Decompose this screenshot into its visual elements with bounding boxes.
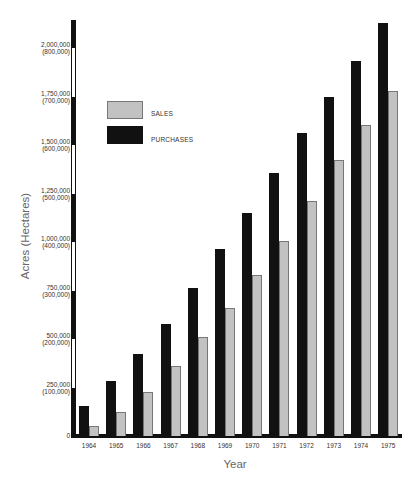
bar-purchases — [161, 324, 171, 436]
bar-sales — [361, 125, 371, 436]
x-tick-label: 1968 — [183, 442, 213, 449]
x-axis-title: Year — [205, 458, 265, 470]
bar-purchases — [269, 173, 279, 436]
x-tick-label: 1966 — [128, 442, 158, 449]
axis-stripe — [71, 194, 76, 243]
bar-sales — [89, 426, 99, 436]
x-tick-label: 1974 — [346, 442, 376, 449]
bar-purchases — [351, 61, 361, 436]
x-tick-label: 1969 — [210, 442, 240, 449]
bar-chart: Acres (Hectares) Year 0250,000(100,000)5… — [0, 0, 416, 484]
y-tick-label: 0 — [66, 432, 70, 439]
legend-label-sales: SALES — [151, 110, 173, 117]
axis-stripe — [71, 48, 76, 97]
bar-sales — [279, 241, 289, 436]
bar-purchases — [79, 406, 89, 436]
axis-stripe — [71, 145, 76, 194]
bar-sales — [252, 275, 262, 436]
bar-sales — [307, 201, 317, 436]
axis-stripe — [71, 291, 76, 340]
axis-stripe — [71, 20, 76, 48]
x-tick-label: 1965 — [101, 442, 131, 449]
bar-purchases — [378, 23, 388, 436]
y-tick-label: 1,000,000(400,000) — [41, 235, 70, 249]
axis-stripe — [71, 97, 76, 146]
bar-sales — [171, 366, 181, 436]
y-tick-label: 1,500,000(600,000) — [41, 138, 70, 152]
y-axis-title: Acres (Hectares) — [19, 181, 31, 291]
x-tick-label: 1971 — [264, 442, 294, 449]
x-tick-label: 1964 — [74, 442, 104, 449]
bar-purchases — [324, 97, 334, 436]
bar-purchases — [242, 213, 252, 436]
legend-swatch-sales — [107, 101, 143, 119]
y-tick-label: 1,750,000(700,000) — [41, 90, 70, 104]
y-tick-label: 1,250,000(500,000) — [41, 187, 70, 201]
y-tick-label: 750,000(300,000) — [42, 284, 70, 298]
legend-label-purchases: PURCHASES — [151, 136, 193, 143]
bar-sales — [334, 160, 344, 436]
bar-purchases — [297, 133, 307, 436]
legend-swatch-purchases — [107, 126, 143, 144]
bar-purchases — [215, 249, 225, 436]
x-tick-label: 1975 — [373, 442, 403, 449]
axis-stripe — [71, 242, 76, 291]
x-tick-label: 1970 — [237, 442, 267, 449]
y-tick-label: 500,000(200,000) — [42, 332, 70, 346]
x-tick-label: 1972 — [292, 442, 322, 449]
bar-purchases — [133, 354, 143, 436]
axis-stripe — [71, 388, 76, 437]
bar-purchases — [188, 288, 198, 436]
bar-purchases — [106, 381, 116, 436]
bar-sales — [116, 412, 126, 436]
x-tick-label: 1973 — [319, 442, 349, 449]
bar-sales — [198, 337, 208, 436]
y-tick-label: 250,000(100,000) — [42, 381, 70, 395]
bar-sales — [388, 91, 398, 436]
axis-stripe — [71, 339, 76, 388]
x-tick-label: 1967 — [156, 442, 186, 449]
y-tick-label: 2,000,000(800,000) — [41, 41, 70, 55]
bar-sales — [225, 308, 235, 436]
bar-sales — [143, 392, 153, 436]
